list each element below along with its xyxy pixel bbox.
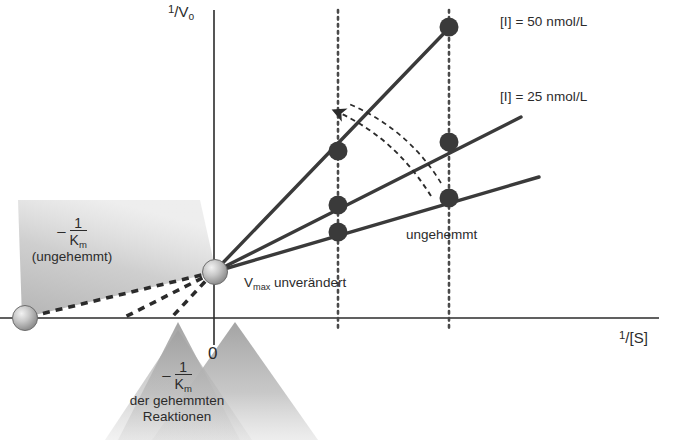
- x-intercept-sphere: [13, 306, 38, 331]
- km-inhibited-numerator: 1: [175, 360, 192, 375]
- km-uninhibited-denominator-symbol: K: [70, 232, 79, 248]
- annotation-vmax-symbol: V: [244, 275, 253, 290]
- lineweaver-burk-figure: 1/Vo 1/[S] 0 [I] = 50 nmol/L [I] = 25 nm…: [0, 0, 681, 440]
- annotation-vmax-rest: unverändert: [270, 275, 346, 290]
- km-inhibited-minus: –: [162, 367, 174, 384]
- km-uninhibited-fraction: – 1 Km: [8, 216, 136, 248]
- y-axis-label: 1/Vo: [168, 4, 194, 21]
- km-inhibited-frac: 1 Km: [175, 360, 192, 392]
- km-uninhibited-label: – 1 Km (ungehemmt): [8, 216, 136, 264]
- km-inhibited-fraction: – 1 Km: [97, 360, 257, 392]
- data-point: [329, 196, 348, 215]
- regression-lines: [214, 27, 539, 272]
- data-point: [329, 223, 348, 242]
- annotation-uninhibited: ungehemmt: [406, 227, 477, 242]
- km-uninhibited-denominator: Km: [70, 231, 87, 248]
- y-axis-label-text: /Vo: [174, 3, 194, 20]
- km-uninhibited-denominator-sub: m: [79, 239, 87, 250]
- km-inhibited-denominator-symbol: K: [175, 376, 184, 392]
- x-axis-label-numerator: 1: [619, 329, 625, 341]
- annotation-vmax-sub: max: [253, 282, 270, 292]
- y-intercept-sphere: [203, 260, 228, 285]
- km-uninhibited-caption: (ungehemmt): [8, 249, 136, 264]
- km-inhibited-caption-line2: Reaktionen: [97, 409, 257, 424]
- annotation-vmax: Vmax unverändert: [244, 275, 346, 290]
- x-axis-label-denominator: [S]: [630, 329, 648, 346]
- km-inhibited-caption-line1: der gehemmten: [97, 393, 257, 408]
- data-point: [329, 142, 348, 161]
- y-axis-label-sub: o: [189, 11, 195, 22]
- km-uninhibited-minus: –: [57, 223, 69, 240]
- km-inhibited-denominator-sub: m: [184, 383, 192, 394]
- data-point: [440, 133, 459, 152]
- km-uninhibited-numerator: 1: [70, 216, 87, 231]
- legend-item-inhibitor-50: [I] = 50 nmol/L: [500, 14, 587, 29]
- y-axis-label-numerator: 1: [168, 3, 174, 15]
- km-inhibited-label: – 1 Km der gehemmten Reaktionen: [97, 360, 257, 424]
- km-inhibited-denominator: Km: [175, 375, 192, 392]
- x-axis-label: 1/[S]: [619, 330, 648, 347]
- legend-item-inhibitor-25: [I] = 25 nmol/L: [500, 89, 587, 104]
- data-point: [440, 189, 459, 208]
- shift-arrow: [333, 104, 441, 196]
- data-point: [440, 18, 459, 37]
- km-uninhibited-frac: 1 Km: [70, 216, 87, 248]
